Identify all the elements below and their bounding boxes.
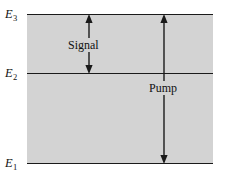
diagram-panel — [27, 15, 213, 164]
energy-level-line-e1 — [27, 163, 213, 164]
energy-level-line-e2 — [27, 73, 213, 74]
energy-level-label-e2: E2 — [5, 67, 17, 80]
energy-level-line-e3 — [27, 14, 213, 15]
level-label-subscript-e2: 2 — [13, 72, 17, 82]
pump-transition-caption: Pump — [147, 81, 179, 95]
level-label-text-e1: E — [5, 156, 13, 170]
level-label-subscript-e3: 3 — [13, 13, 17, 23]
energy-level-diagram: E3 E2 E1 Signal Pump — [0, 0, 227, 178]
energy-level-label-e3: E3 — [5, 8, 17, 21]
signal-transition-caption: Signal — [66, 38, 101, 52]
level-label-subscript-e1: 1 — [13, 162, 17, 172]
level-label-text-e2: E — [5, 66, 13, 80]
energy-level-label-e1: E1 — [5, 157, 17, 170]
level-label-text-e3: E — [5, 7, 13, 21]
